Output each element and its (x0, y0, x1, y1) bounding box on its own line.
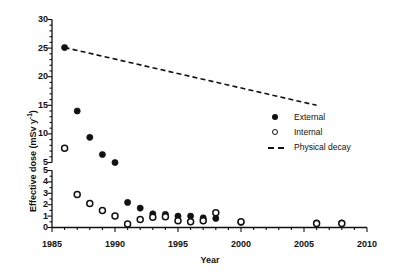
data-point-external (175, 213, 181, 219)
data-point-internal (339, 221, 345, 227)
chart-figure: Effective dose (mSv y-1) 30 25 20 15 10 … (0, 0, 407, 274)
data-point-internal (213, 210, 219, 216)
data-point-internal (200, 218, 206, 224)
data-point-external (162, 211, 168, 217)
data-point-external (314, 220, 320, 226)
series-physical-decay (65, 48, 317, 106)
data-point-external (99, 151, 105, 157)
legend-item-internal: Internal (268, 125, 398, 140)
y-tick-label-upper-10: 10 (24, 129, 48, 138)
x-tick-label-2005: 2005 (287, 240, 321, 249)
data-point-internal (162, 214, 168, 220)
x-axis-title: Year (150, 255, 270, 265)
data-point-external (137, 205, 143, 211)
data-point-internal (175, 218, 181, 224)
chart-legend: External Internal Physical decay (268, 110, 398, 155)
data-point-external (188, 213, 194, 219)
data-point-external (87, 134, 93, 140)
data-point-internal (87, 201, 93, 207)
y-tick-label-lower-4: 4 (24, 177, 48, 186)
data-point-external (238, 219, 244, 225)
filled-circle-icon (272, 114, 278, 120)
data-point-internal (314, 221, 320, 227)
data-point-external (125, 199, 131, 205)
legend-label-external: External (294, 112, 325, 122)
data-point-internal (125, 221, 131, 227)
data-point-internal (62, 145, 68, 151)
legend-item-external: External (268, 110, 398, 125)
legend-label-physical-decay: Physical decay (294, 142, 351, 152)
x-tick-label-1990: 1990 (98, 240, 132, 249)
data-point-external (213, 215, 219, 221)
physical-decay-line (65, 48, 317, 106)
x-tick-label-1985: 1985 (35, 240, 69, 249)
data-point-external (62, 44, 68, 50)
open-circle-icon (272, 129, 278, 135)
x-tick-label-1995: 1995 (161, 240, 195, 249)
data-point-external (112, 159, 118, 165)
data-point-external (150, 211, 156, 217)
data-point-external (74, 108, 80, 114)
data-point-internal (112, 213, 118, 219)
y-tick-label-lower-0: 0 (24, 223, 48, 232)
y-tick-label-lower-5: 5 (24, 166, 48, 175)
y-tick-label-upper-15: 15 (24, 101, 48, 110)
legend-item-physical-decay: Physical decay (268, 140, 398, 155)
data-point-external (339, 220, 345, 226)
x-tick-label-2000: 2000 (224, 240, 258, 249)
legend-label-internal: Internal (294, 127, 322, 137)
y-tick-label-lower-3: 3 (24, 189, 48, 198)
data-point-internal (188, 219, 194, 225)
y-tick-label-lower-2: 2 (24, 200, 48, 209)
dashed-line-icon (268, 147, 284, 149)
y-tick-label-lower-1: 1 (24, 212, 48, 221)
x-tick-label-2010: 2010 (350, 240, 384, 249)
data-point-internal (150, 214, 156, 220)
y-tick-label-upper-25: 25 (24, 44, 48, 53)
data-point-internal (99, 207, 105, 213)
data-point-internal (137, 217, 143, 223)
y-tick-label-upper-20: 20 (24, 72, 48, 81)
data-point-external (200, 215, 206, 221)
data-point-internal (238, 219, 244, 225)
data-point-internal (74, 191, 80, 197)
y-tick-label-upper-30: 30 (24, 15, 48, 24)
